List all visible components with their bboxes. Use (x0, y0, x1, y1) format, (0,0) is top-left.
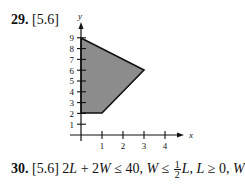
fraction-one-half: 12 (174, 160, 181, 179)
y-tick-label: 2 (70, 109, 75, 119)
expr-text: ≤ (158, 161, 173, 176)
var-W: W (99, 161, 111, 176)
section-reference: [5.6] (32, 161, 59, 176)
expr-text: + 2 (77, 161, 99, 176)
expr-text: ≤ 40, (111, 161, 147, 176)
y-tick-label: 4 (70, 87, 75, 97)
x-tick-label: 2 (121, 141, 126, 151)
y-tick-label: 9 (70, 33, 75, 43)
problem-30-label: 30. [5.6] 2L + 2W ≤ 40, W ≤ 12L, L ≥ 0, … (11, 160, 245, 179)
constraint-expression: 2L + 2W ≤ 40, W ≤ 12L, L ≥ 0, W ≥ 0 (62, 161, 245, 176)
y-tick-label: 1 (70, 120, 75, 130)
x-axis-label: x (188, 130, 193, 140)
x-tick-label: 1 (100, 141, 105, 151)
var-W: W (146, 161, 158, 176)
y-tick-label: 7 (70, 55, 75, 65)
feasible-region-graph: 1 2 3 4 1 2 3 4 5 6 7 8 9 x y (0, 0, 245, 155)
var-W: W (233, 161, 245, 176)
expr-text: , (190, 161, 197, 176)
x-tick-label: 3 (142, 141, 147, 151)
y-axis-label: y (77, 11, 82, 21)
shaded-feasible-region (81, 38, 144, 113)
x-axis-arrow-icon (177, 133, 184, 138)
fraction-denominator: 2 (174, 170, 181, 179)
expr-text: ≥ 0, (204, 161, 233, 176)
x-tick-label: 4 (163, 141, 168, 151)
problem-number: 30. (11, 161, 29, 176)
var-L: L (69, 161, 77, 176)
y-axis-arrow-icon (79, 22, 84, 29)
var-L: L (182, 161, 190, 176)
y-tick-label: 6 (70, 66, 75, 76)
y-tick-label: 8 (70, 44, 75, 54)
y-tick-label: 5 (70, 76, 75, 86)
y-tick-label: 3 (70, 98, 75, 108)
